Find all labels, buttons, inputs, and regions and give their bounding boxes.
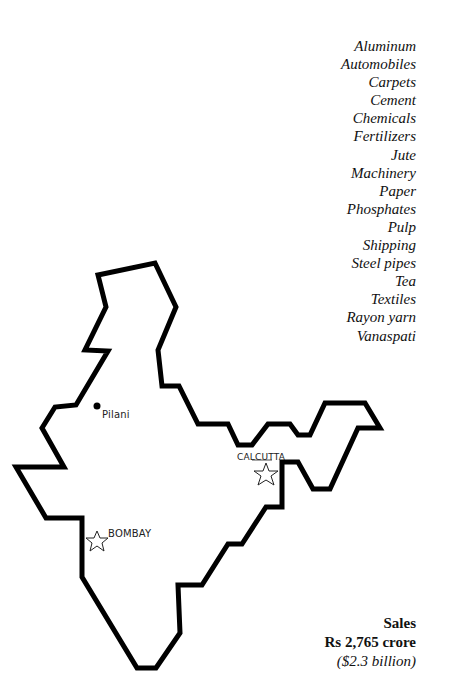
industries-list: Aluminum Automobiles Carpets Cement Chem… [341,37,416,345]
industry-item: Steel pipes [341,254,416,272]
industry-item: Tea [341,272,416,290]
industry-item: Cement [341,91,416,109]
sales-value: Rs 2,765 crore [324,633,416,652]
industry-item: Automobiles [341,55,416,73]
bombay-star-icon [86,531,108,551]
pilani-dot-icon [94,403,101,410]
sales-block: Sales Rs 2,765 crore ($2.3 billion) [324,614,416,671]
calcutta-star-icon [254,463,278,485]
industry-item: Paper [341,182,416,200]
city-label-calcutta: CALCUTTA [237,452,285,462]
india-outline [16,263,380,668]
city-label-bombay: BOMBAY [108,528,151,539]
industry-item: Jute [341,146,416,164]
industry-item: Carpets [341,73,416,91]
city-label-pilani: Pilani [102,409,130,420]
industry-item: Chemicals [341,109,416,127]
industry-item: Vanaspati [341,327,416,345]
industry-item: Shipping [341,236,416,254]
industry-item: Phosphates [341,200,416,218]
industry-item: Pulp [341,218,416,236]
sales-label: Sales [324,614,416,633]
industry-item: Aluminum [341,37,416,55]
industry-item: Rayon yarn [341,308,416,326]
industry-item: Textiles [341,290,416,308]
sales-usd: ($2.3 billion) [324,652,416,671]
industry-item: Machinery [341,164,416,182]
industry-item: Fertilizers [341,127,416,145]
